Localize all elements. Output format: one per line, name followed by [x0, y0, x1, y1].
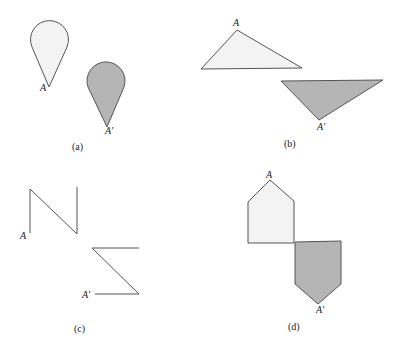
caption-b: (b)	[284, 138, 296, 150]
panel-c: A A′ (c)	[19, 187, 139, 335]
original-triangle	[201, 30, 302, 69]
image-triangle	[281, 80, 383, 120]
label-a-prime: A′	[316, 121, 326, 132]
label-a: A	[265, 169, 273, 180]
panel-d: A A′ (d)	[248, 169, 341, 333]
panel-b: A A′ (b)	[201, 17, 383, 150]
caption-d: (d)	[288, 321, 300, 333]
original-n-shape	[30, 187, 77, 234]
rotation-figure: A A′ (a) A A′ (b) A A′ (c) A A′ (d)	[0, 0, 398, 344]
label-a: A	[232, 17, 240, 28]
caption-a: (a)	[72, 141, 83, 153]
image-pentagon	[295, 241, 341, 304]
label-a-prime: A′	[104, 125, 114, 136]
image-teardrop	[87, 62, 125, 127]
label-a: A	[39, 82, 47, 93]
image-z-shape	[92, 248, 139, 294]
label-a-prime: A′	[81, 289, 91, 300]
original-pentagon	[248, 180, 294, 243]
caption-c: (c)	[74, 323, 85, 335]
label-a: A	[19, 230, 27, 241]
panel-a: A A′ (a)	[31, 21, 125, 153]
label-a-prime: A′	[315, 304, 325, 315]
original-teardrop	[31, 21, 69, 87]
